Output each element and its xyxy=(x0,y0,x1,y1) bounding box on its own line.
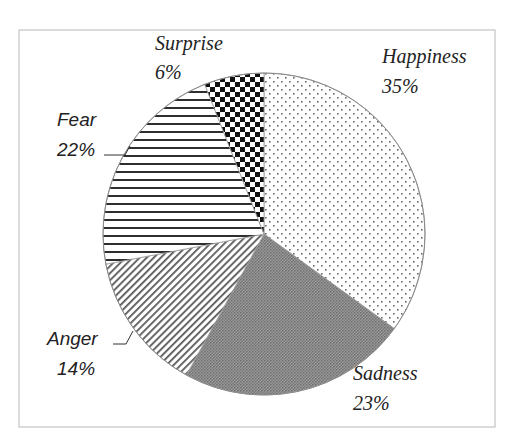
label-sadness-pct: 23% xyxy=(353,392,390,414)
label-anger-name: Anger xyxy=(46,328,98,349)
label-fear-name: Fear xyxy=(57,109,97,130)
label-sadness-name: Sadness xyxy=(353,362,418,384)
label-happiness-name: Happiness xyxy=(381,45,467,68)
label-surprise-pct: 6% xyxy=(155,61,182,83)
label-happiness-pct: 35% xyxy=(381,75,419,97)
pie-slices xyxy=(103,73,425,395)
pie-chart: Surprise 6% Happiness 35% Fear 22% Anger… xyxy=(0,0,515,445)
label-fear-pct: 22% xyxy=(56,139,95,160)
label-anger-pct: 14% xyxy=(57,358,95,379)
label-surprise-name: Surprise xyxy=(155,32,223,55)
